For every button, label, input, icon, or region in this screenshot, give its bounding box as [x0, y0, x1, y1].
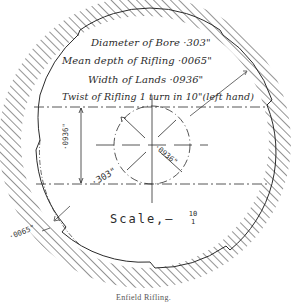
dimension-vertical-land-width: ·0936"	[62, 123, 70, 150]
scale-denominator: 1	[187, 218, 199, 226]
spec-twist-of-rifling: Twist of Rifling 1 turn in 10"(left hand…	[62, 92, 254, 102]
scale-fraction: 10 1	[187, 210, 199, 226]
vertical-dimension	[79, 108, 83, 183]
spec-width-of-lands: Width of Lands ·0936"	[88, 75, 203, 85]
scale-numerator: 10	[187, 210, 199, 218]
scale-label: Scale,–	[110, 213, 175, 225]
spec-diameter-of-bore: Diameter of Bore ·303"	[91, 38, 211, 48]
enfield-rifling-diagram: Diameter of Bore ·303" Mean depth of Rif…	[0, 0, 291, 305]
spec-mean-depth-of-rifling: Mean depth of Rifling ·0065"	[62, 56, 212, 66]
figure-caption: Enfield Rifling.	[116, 294, 171, 302]
